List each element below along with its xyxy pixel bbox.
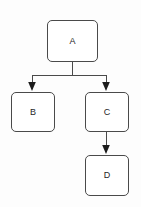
flowchart-node-b[interactable]: B [11,92,55,132]
node-d-label: D [104,171,111,180]
flowchart-node-a[interactable]: A [47,20,98,62]
flowchart-node-c[interactable]: C [85,92,129,132]
edge-a-to-c-arrowhead [102,82,110,91]
edge-c-to-d-arrowhead [102,145,110,154]
flowchart-node-d[interactable]: D [85,155,129,196]
node-c-label: C [104,108,111,117]
node-b-label: B [30,108,36,117]
edge-a-to-b-arrowhead [28,82,36,91]
flowchart-canvas: A B C D [0,0,141,207]
node-a-label: A [69,37,75,46]
